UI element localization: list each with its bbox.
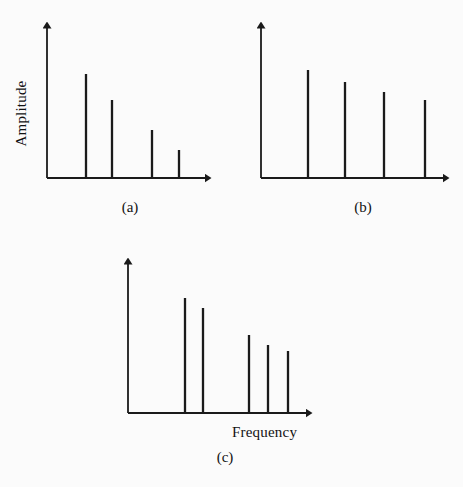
panel-caption-b: (b) <box>333 199 393 216</box>
y-axis-label-amplitude: Amplitude <box>13 69 30 159</box>
panel-a-bars <box>86 74 179 178</box>
panel-caption-c: (c) <box>195 449 255 466</box>
panel-a <box>47 28 205 178</box>
x-axis-label-frequency: Frequency <box>232 424 297 441</box>
panel-c <box>128 264 306 413</box>
panel-b <box>261 28 443 178</box>
spectrum-figure <box>0 0 463 487</box>
panel-caption-a: (a) <box>100 199 160 216</box>
panel-b-bars <box>308 70 425 178</box>
panel-c-bars <box>185 298 288 413</box>
